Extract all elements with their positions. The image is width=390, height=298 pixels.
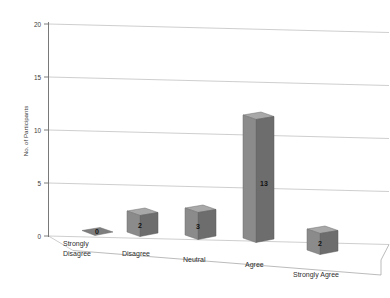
- category-labels-group: Strongly Disagree Disagree Neutral Agree…: [63, 240, 339, 279]
- gridline-10: [49, 130, 390, 139]
- bar-chart-3d: 20 15 10 5 0 No. of Participants 0 2 3: [0, 0, 390, 298]
- category-label-neutral: Neutral: [183, 256, 206, 263]
- floor-back-right-edge: [381, 245, 389, 261]
- y-tick-label-20: 20: [34, 21, 42, 28]
- gridline-15: [49, 77, 390, 86]
- gridlines-group: [49, 24, 390, 245]
- y-tick-label-15: 15: [34, 74, 42, 81]
- bar-value-label: 0: [95, 228, 99, 235]
- bar-value-label: 2: [318, 240, 322, 247]
- category-label-strongly-disagree-line1: Strongly: [63, 240, 89, 248]
- bar-agree[interactable]: 13: [243, 112, 274, 243]
- gridline-20: [49, 24, 390, 33]
- bar-strongly-agree[interactable]: 2: [307, 226, 338, 255]
- bar-side-face: [140, 213, 158, 237]
- chart-svg: 20 15 10 5 0 No. of Participants 0 2 3: [0, 0, 390, 298]
- bar-disagree[interactable]: 2: [127, 208, 158, 237]
- category-label-strongly-disagree-line2: Disagree: [63, 250, 91, 258]
- category-label-strongly-agree: Strongly Agree: [293, 271, 339, 279]
- bar-value-label: 2: [138, 222, 142, 229]
- category-label-disagree: Disagree: [122, 250, 150, 258]
- bar-value-label: 13: [260, 180, 268, 187]
- bar-neutral[interactable]: 3: [185, 205, 216, 240]
- wall-edges-group: [49, 24, 74, 251]
- bar-side-face: [198, 210, 216, 240]
- y-tick-label-10: 10: [34, 127, 42, 134]
- y-axis-group: 20 15 10 5 0 No. of Participants: [22, 21, 49, 240]
- bar-value-label: 3: [196, 223, 200, 230]
- bar-front-face: [243, 115, 256, 243]
- y-tick-label-0: 0: [37, 233, 41, 240]
- y-axis-title: No. of Participants: [22, 106, 29, 157]
- floor-plane-group: [73, 245, 389, 276]
- bar-side-face: [320, 231, 338, 255]
- gridline-5: [49, 183, 390, 192]
- bar-strongly-disagree[interactable]: 0: [82, 228, 113, 236]
- y-tick-label-5: 5: [37, 180, 41, 187]
- category-label-agree: Agree: [245, 261, 264, 269]
